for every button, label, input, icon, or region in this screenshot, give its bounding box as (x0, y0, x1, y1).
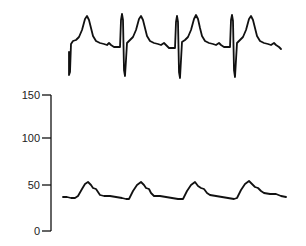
y-tick-label-50: 50 (28, 179, 40, 191)
y-tick-label-0: 0 (34, 225, 40, 237)
ecg-trace (69, 14, 281, 78)
chart-canvas: 150 100 50 0 (0, 0, 306, 246)
y-tick-label-150: 150 (22, 89, 40, 101)
y-tick-label-100: 100 (22, 132, 40, 144)
pressure-trace (63, 181, 286, 199)
y-axis: 150 100 50 0 (22, 89, 51, 237)
